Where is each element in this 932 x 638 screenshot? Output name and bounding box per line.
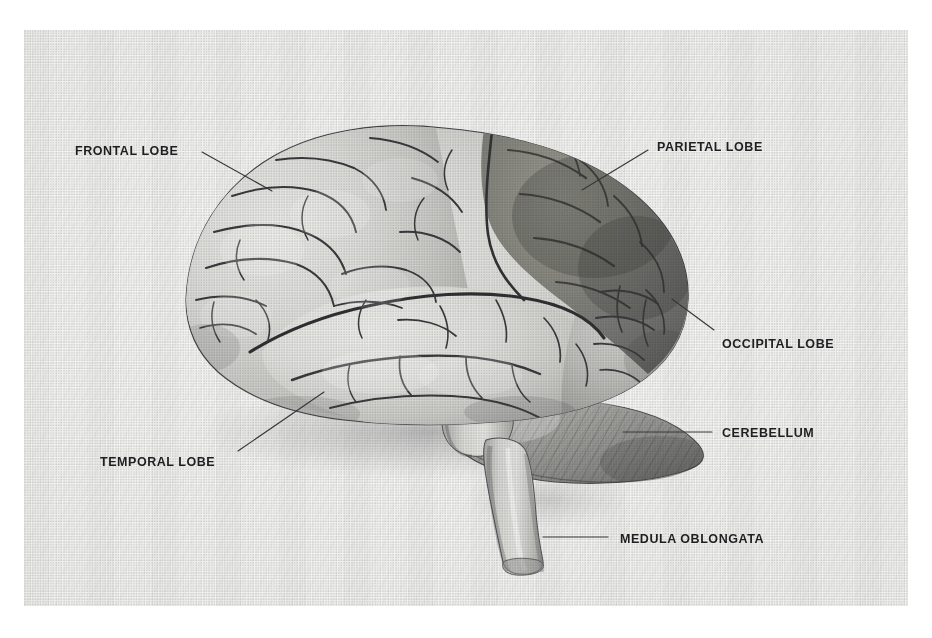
label-medulla-oblongata: MEDULA OBLONGATA (620, 533, 764, 546)
label-parietal-lobe: PARIETAL LOBE (657, 141, 763, 154)
medulla-cut-end (503, 558, 544, 575)
label-frontal-lobe: FRONTAL LOBE (75, 145, 178, 158)
cerebrum-structure (172, 126, 704, 432)
label-cerebellum: CEREBELLUM (722, 427, 814, 440)
brain-illustration (0, 0, 932, 638)
label-temporal-lobe: TEMPORAL LOBE (100, 456, 215, 469)
brain-anatomy-figure: FRONTAL LOBE PARIETAL LOBE OCCIPITAL LOB… (0, 0, 932, 638)
label-occipital-lobe: OCCIPITAL LOBE (722, 338, 834, 351)
